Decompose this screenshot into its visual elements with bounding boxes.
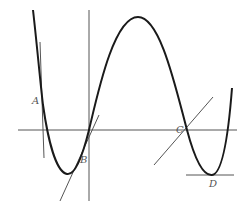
diagram-svg: A B C D <box>0 0 248 210</box>
point-label-c: C <box>176 124 184 135</box>
function-curve <box>33 10 232 175</box>
point-label-a: A <box>31 95 39 106</box>
point-label-b: B <box>79 154 87 165</box>
function-diagram: A B C D <box>0 0 248 210</box>
point-label-d: D <box>208 178 217 189</box>
